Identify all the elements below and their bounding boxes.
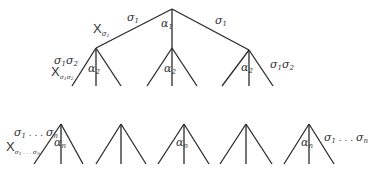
label-bottom5-alphan: αn — [301, 136, 313, 150]
label-right-sigma1sigma2: σ1σ2 — [270, 58, 295, 72]
tree-diagram: σ1 α1 σ1 Xσ1 σ1σ2 Xσ1σ2 α2 α2 α2 σ1σ2 σ1… — [0, 0, 370, 174]
label-root-alpha1: α1 — [161, 17, 173, 31]
subtree-left — [72, 48, 121, 86]
label-middle-alpha2: α2 — [164, 62, 176, 76]
label-bottom1-alphan: αn — [54, 136, 66, 150]
label-right-alpha2: α2 — [241, 61, 253, 75]
label-x-sigma1: Xσ1 — [93, 21, 109, 38]
label-root-left-sigma1: σ1 — [127, 11, 139, 25]
label-bottom-left-sigma1-sigman: σ1 . . . σn — [14, 126, 59, 140]
subtree-middle — [147, 48, 197, 86]
edge-root-right — [172, 9, 249, 50]
label-bottom-right-sigma1-sigman: σ1 . . . σn — [324, 131, 369, 145]
bottom-subtree-2 — [96, 124, 146, 164]
bottom-subtree-4 — [220, 124, 272, 164]
label-root-right-sigma1: σ1 — [215, 14, 227, 28]
label-left-alpha2: α2 — [88, 62, 100, 76]
label-bottom3-alphan: αn — [176, 136, 188, 150]
label-x-sigma1-sigman: Xσ1 . . . σn — [6, 139, 40, 156]
